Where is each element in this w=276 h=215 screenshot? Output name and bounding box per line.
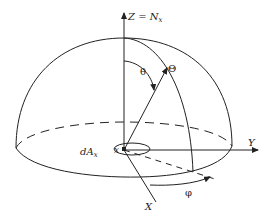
x-axis-label: X: [144, 201, 153, 212]
z-axis-label: Z = Nx: [127, 11, 162, 24]
hemisphere-diagram: Z = Nx θ Θ Y X φ dAx x: [0, 0, 276, 215]
meridian-arc: [124, 38, 193, 172]
phi-label: φ: [185, 187, 192, 198]
area-element-ellipse: [114, 143, 150, 155]
area-element-label: dAx: [80, 146, 98, 159]
theta-label: θ: [140, 66, 146, 77]
x-axis: [124, 150, 156, 202]
direction-point-label: Θ: [168, 63, 176, 74]
origin-label: x: [114, 145, 119, 155]
phi-arc: [150, 177, 210, 185]
direction-vector: [124, 68, 167, 150]
theta-arc: [124, 61, 154, 90]
origin-marker: [122, 147, 126, 151]
y-axis-label: Y: [248, 137, 256, 148]
